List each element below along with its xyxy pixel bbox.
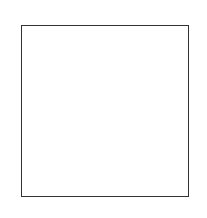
chess-board	[21, 25, 189, 197]
cropped-text-remnant	[72, 0, 132, 3]
